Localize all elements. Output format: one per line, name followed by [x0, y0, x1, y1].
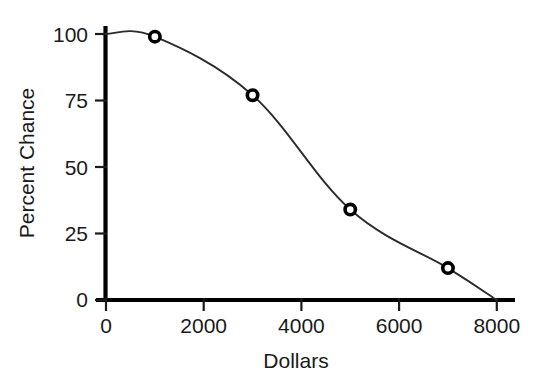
y-tick-label-0: 0 [76, 288, 88, 311]
y-axis-title: Percent Chance [15, 88, 38, 239]
x-axis-title: Dollars [263, 349, 328, 372]
data-point-marker[interactable] [247, 90, 257, 100]
y-tick-label-25: 25 [65, 222, 88, 245]
chart-canvas: 100 75 50 25 0 0 2000 4000 6000 8000 Dol… [0, 0, 545, 389]
x-tick-label-0: 0 [100, 314, 112, 337]
y-tick-label-50: 50 [65, 156, 88, 179]
y-tick-label-100: 100 [53, 23, 88, 46]
data-point-marker[interactable] [345, 204, 355, 214]
x-tick-label-6000: 6000 [376, 314, 423, 337]
y-tick-label-75: 75 [65, 89, 88, 112]
x-tick-label-8000: 8000 [473, 314, 520, 337]
chart-figure: 100 75 50 25 0 0 2000 4000 6000 8000 Dol… [0, 0, 545, 389]
chart-background [0, 0, 545, 389]
data-point-marker[interactable] [150, 31, 160, 41]
x-tick-label-4000: 4000 [278, 314, 325, 337]
x-tick-label-2000: 2000 [180, 314, 227, 337]
data-point-marker[interactable] [443, 263, 453, 273]
